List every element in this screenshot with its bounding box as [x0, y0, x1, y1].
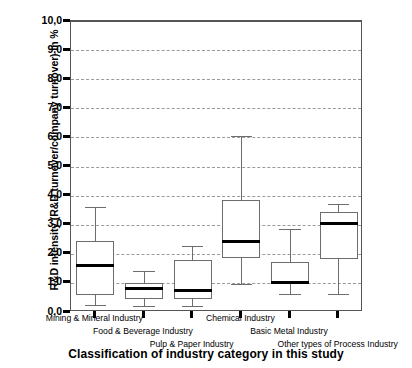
y-axis-tick-mark: [63, 193, 70, 196]
gridline: [71, 167, 361, 168]
whisker-upper: [338, 204, 339, 211]
gridline: [71, 137, 361, 138]
x-axis-category-label: Basic Metal Industry: [250, 326, 327, 337]
box-plot-series: [320, 21, 358, 310]
whisker-cap-lower: [85, 305, 106, 306]
gridline: [71, 196, 361, 197]
median-line: [320, 222, 358, 225]
whisker-cap-lower: [279, 294, 300, 295]
whisker-cap-upper: [328, 204, 349, 205]
gridline: [71, 108, 361, 109]
box-plot-series: [174, 21, 212, 310]
x-axis-title: Classification of industry category in t…: [0, 347, 412, 361]
whisker-lower: [192, 299, 193, 306]
box-iqr: [222, 200, 260, 258]
whisker-lower: [338, 259, 339, 294]
gridline: [71, 21, 361, 22]
median-line: [174, 289, 212, 292]
whisker-upper: [290, 229, 291, 262]
y-axis-tick-mark: [63, 19, 70, 22]
whisker-cap-lower: [231, 284, 252, 285]
y-axis-tick-mark: [63, 280, 70, 283]
gridline: [71, 50, 361, 51]
box-iqr: [125, 283, 163, 299]
median-line: [76, 264, 114, 267]
y-axis-tick-mark: [63, 251, 70, 254]
box-plot-series: [76, 21, 114, 310]
y-axis-tick-mark: [63, 164, 70, 167]
whisker-upper: [241, 136, 242, 200]
median-line: [222, 240, 260, 243]
y-axis-tick-mark: [63, 106, 70, 109]
y-axis-tick-mark: [63, 222, 70, 225]
y-axis-tick-marks: [0, 20, 70, 311]
whisker-lower: [290, 284, 291, 294]
whisker-cap-lower: [133, 306, 154, 307]
y-axis-tick-mark: [63, 77, 70, 80]
box-iqr: [320, 212, 358, 259]
whisker-cap-upper: [182, 246, 203, 247]
box-plot-series: [125, 21, 163, 310]
whisker-lower: [95, 295, 96, 305]
boxplot-chart: R&D intensity (R&D turnover/company turn…: [0, 0, 412, 368]
gridline: [71, 283, 361, 284]
box-plot-series: [222, 21, 260, 310]
whisker-cap-upper: [133, 271, 154, 272]
y-axis-tick-mark: [63, 135, 70, 138]
whisker-upper: [192, 246, 193, 261]
x-axis-category-label: Food & Beverage Industry: [93, 326, 193, 337]
whisker-cap-lower: [182, 306, 203, 307]
whisker-cap-upper: [85, 207, 106, 208]
plot-inner: [71, 21, 361, 310]
whisker-lower: [241, 258, 242, 284]
whisker-upper: [95, 207, 96, 240]
x-axis-category-label: Mining & Mineral Industry: [46, 313, 143, 324]
whisker-cap-upper: [231, 136, 252, 137]
whisker-upper: [144, 271, 145, 283]
gridline: [71, 79, 361, 80]
x-axis-category-label: Chemical Industry: [206, 313, 275, 324]
plot-area: [70, 20, 362, 311]
box-plot-series: [271, 21, 309, 310]
whisker-cap-upper: [279, 229, 300, 230]
median-line: [125, 287, 163, 290]
y-axis-tick-mark: [63, 48, 70, 51]
gridline: [71, 225, 361, 226]
box-iqr: [76, 241, 114, 295]
whisker-lower: [144, 299, 145, 306]
median-line: [271, 281, 309, 284]
box-iqr: [174, 260, 212, 299]
gridline: [71, 254, 361, 255]
whisker-cap-lower: [328, 294, 349, 295]
